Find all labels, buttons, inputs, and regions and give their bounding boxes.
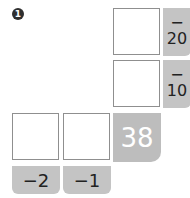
operation-tab-middle: − 10 <box>163 60 190 108</box>
answer-box-left[interactable] <box>12 113 59 160</box>
minus-sign: − <box>170 68 183 82</box>
operand: 1 <box>89 170 100 191</box>
operand: 20 <box>167 30 187 48</box>
operation-tab-center: −1 <box>63 166 111 194</box>
operation-tab-left: −2 <box>12 166 60 194</box>
minus-sign: − <box>23 170 38 191</box>
minus-sign: − <box>170 16 183 30</box>
problem-number-badge: 1 <box>12 8 24 20</box>
answer-box-top[interactable] <box>113 8 160 55</box>
minus-sign: − <box>74 170 89 191</box>
operand: 10 <box>167 82 187 100</box>
answer-box-center[interactable] <box>63 113 110 160</box>
answer-box-middle[interactable] <box>113 60 160 107</box>
start-value: 38 <box>113 113 161 162</box>
operation-tab-top: − 20 <box>163 8 190 56</box>
operand: 2 <box>38 170 49 191</box>
